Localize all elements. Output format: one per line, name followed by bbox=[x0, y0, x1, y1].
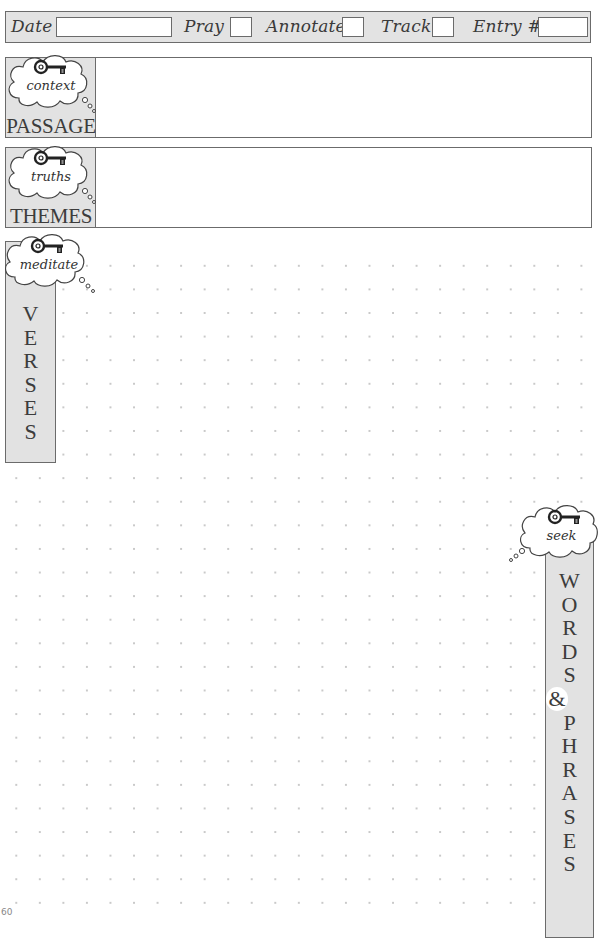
thought-cloud-icon: truths bbox=[5, 139, 97, 209]
words-letter: R bbox=[546, 758, 593, 782]
pray-label: Pray bbox=[184, 16, 224, 36]
track-label: Track bbox=[381, 16, 431, 36]
annotate-checkbox[interactable] bbox=[342, 17, 364, 37]
verses-letter: S bbox=[6, 420, 55, 444]
words-letter: W bbox=[546, 569, 593, 593]
thought-cloud-icon: seek bbox=[504, 500, 599, 570]
words-letter: P bbox=[546, 711, 593, 735]
truths-cloud-word: truths bbox=[5, 169, 97, 184]
header-bar: Date Pray Annotate Track Entry # bbox=[5, 11, 591, 43]
verses-letter: E bbox=[6, 326, 55, 350]
words-letter: S bbox=[546, 805, 593, 829]
seek-cloud-word: seek bbox=[524, 528, 599, 543]
page-number: 60 bbox=[1, 907, 12, 917]
words-phrases-label-panel: W O R D S & P H R A S E S bbox=[545, 518, 594, 938]
annotate-label: Annotate bbox=[266, 16, 346, 36]
verses-letter: E bbox=[6, 396, 55, 420]
words-letter: E bbox=[546, 829, 593, 853]
words-letter: R bbox=[546, 616, 593, 640]
verses-letter: R bbox=[6, 349, 55, 373]
thought-cloud-icon: meditate bbox=[3, 229, 95, 299]
ampersand-badge: & bbox=[546, 687, 593, 711]
pray-checkbox[interactable] bbox=[230, 17, 252, 37]
verses-letter: V bbox=[6, 302, 55, 326]
verses-vertical-label: V E R S E S bbox=[6, 302, 55, 444]
passage-writing-area[interactable] bbox=[96, 58, 591, 137]
verses-letter: S bbox=[6, 373, 55, 397]
entry-number-field[interactable] bbox=[538, 17, 588, 37]
thought-cloud-icon: context bbox=[5, 48, 97, 118]
words-letter: A bbox=[546, 781, 593, 805]
ampersand: & bbox=[546, 687, 568, 711]
verses-writing-area[interactable] bbox=[56, 246, 599, 476]
themes-writing-area[interactable] bbox=[96, 148, 591, 227]
meditate-cloud-word: meditate bbox=[3, 257, 95, 272]
words-letter: O bbox=[546, 593, 593, 617]
context-cloud-word: context bbox=[5, 78, 97, 93]
words-phrases-writing-area[interactable] bbox=[0, 470, 545, 916]
entry-label: Entry # bbox=[473, 16, 542, 36]
words-letter: D bbox=[546, 640, 593, 664]
date-label: Date bbox=[11, 16, 52, 36]
words-phrases-vertical-label: W O R D S & P H R A S E S bbox=[546, 569, 593, 876]
track-checkbox[interactable] bbox=[432, 17, 454, 37]
date-field[interactable] bbox=[56, 17, 172, 37]
words-letter: S bbox=[546, 663, 593, 687]
words-letter: H bbox=[546, 734, 593, 758]
words-letter: S bbox=[546, 852, 593, 876]
